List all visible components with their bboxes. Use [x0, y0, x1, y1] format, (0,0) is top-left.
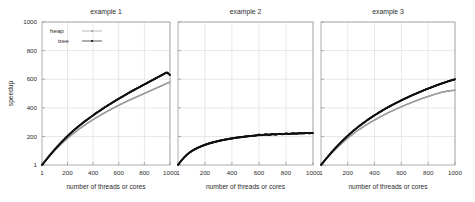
x-tick-label: 600	[114, 169, 125, 176]
x-tick-label: 400	[88, 169, 99, 176]
legend-label-tree: tree	[58, 37, 69, 44]
legend-label-heap: heap	[50, 27, 64, 34]
x-tick-label: 800	[423, 169, 434, 176]
x-tick-label: 1	[176, 169, 180, 176]
plot-frame-2	[178, 22, 313, 165]
series-heap-panel-1	[41, 81, 171, 165]
x-axis-title: number of threads or cores	[206, 183, 286, 190]
x-tick-label: 800	[139, 169, 150, 176]
y-tick-label: 400	[27, 104, 38, 111]
x-tick-label: 600	[254, 169, 265, 176]
y-tick-label: 1	[34, 161, 38, 168]
y-tick-label: 1000	[23, 18, 37, 25]
x-tick-label: 1	[40, 169, 44, 176]
x-tick-label: 200	[343, 169, 354, 176]
x-tick-label: 400	[227, 169, 238, 176]
series-heap-panel-2	[177, 132, 314, 165]
panel-3: example 312004006008001000number of thre…	[319, 8, 462, 190]
y-tick-label: 200	[27, 133, 38, 140]
data-point	[169, 74, 171, 76]
legend-marker-tree	[91, 40, 93, 42]
legend-marker-heap	[91, 30, 93, 32]
speedup-figure: example 11200400600800100012004006008001…	[0, 0, 475, 202]
series-tree-panel-1	[41, 71, 171, 166]
series-tree-panel-3	[320, 78, 456, 166]
data-point	[454, 90, 456, 92]
x-tick-label: 400	[369, 169, 380, 176]
chart-canvas: example 11200400600800100012004006008001…	[0, 0, 475, 202]
x-tick-label: 800	[281, 169, 292, 176]
y-tick-label: 600	[27, 75, 38, 82]
panel-title-2: example 2	[230, 8, 262, 16]
x-tick-label: 200	[62, 169, 73, 176]
series-heap-panel-3	[320, 90, 456, 166]
x-axis-title: number of threads or cores	[66, 183, 146, 190]
legend: heaptree	[50, 27, 102, 44]
x-tick-label: 1	[319, 169, 323, 176]
panel-1: example 11200400600800100012004006008001…	[7, 8, 177, 190]
panel-2: example 212004006008001000number of thre…	[176, 8, 320, 190]
y-tick-label: 800	[27, 47, 38, 54]
panel-title-1: example 1	[90, 8, 122, 16]
data-point	[312, 132, 314, 134]
data-point	[169, 81, 171, 83]
y-axis-title: speedup	[7, 81, 15, 107]
x-tick-label: 600	[396, 169, 407, 176]
data-point	[454, 78, 456, 80]
x-tick-label: 1000	[448, 169, 462, 176]
x-axis-title: number of threads or cores	[348, 183, 428, 190]
x-tick-label: 200	[200, 169, 211, 176]
panel-title-3: example 3	[372, 8, 404, 16]
